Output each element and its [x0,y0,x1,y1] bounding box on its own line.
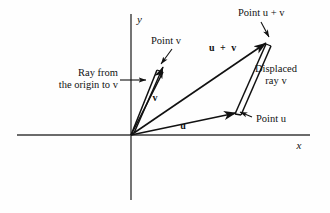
displaced-ray-line2: ray v [265,75,287,86]
ray-from-origin-line1: Ray from [78,67,118,78]
point-v-label: Point v [151,35,182,46]
point-u-plus-v-label: Point u + v [238,7,285,18]
vector-u-plus-v-part2: v [231,42,236,53]
vector-u-plus-v-plus: + [220,42,226,53]
svg-text:Ray from: Ray from [78,67,118,78]
point-v-leader [161,49,172,64]
ray-from-origin-label: Ray from the origin to v [59,67,119,90]
diagram-canvas: x y [0,0,330,213]
vector-u-label: u [180,120,186,131]
svg-text:Displaced: Displaced [255,63,298,74]
point-v-label-text: Point v [151,35,182,46]
vector-u-plus-v-label: u + v [209,42,236,53]
displaced-ray-v-head-cap [266,44,271,46]
displaced-ray-v-tail-cap [235,114,241,115]
vector-u-label-text: u [180,120,186,131]
displaced-ray-line1: Displaced [255,63,298,74]
displaced-ray-label: Displaced ray v [255,63,298,86]
point-u-plus-v-leader [261,22,269,37]
vector-v-label-text: v [153,92,158,103]
vector-v-label: v [153,92,158,103]
ray-from-origin-line2: the origin to v [59,79,119,90]
vector-addition-figure: x y [0,0,330,213]
point-u-label: Point u [256,113,287,124]
point-u-label-text: Point u [256,113,287,124]
vector-u-plus-v-part1: u [209,42,215,53]
point-u-plus-v-label-text: Point u + v [238,7,285,18]
svg-text:the origin to v: the origin to v [59,79,119,90]
x-axis-label: x [296,139,302,151]
svg-text:ray v: ray v [265,75,287,86]
y-axis-label: y [136,13,142,25]
